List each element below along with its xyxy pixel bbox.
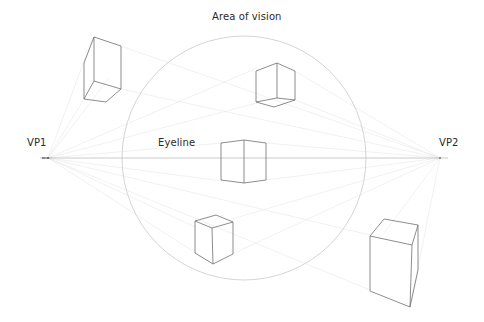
vp2-marker bbox=[439, 157, 441, 159]
eyeline-label: Eyeline bbox=[158, 137, 195, 148]
cube-bottom-right bbox=[370, 219, 418, 307]
perspective-diagram bbox=[0, 0, 484, 322]
cube-center bbox=[221, 140, 266, 183]
vp2-label: VP2 bbox=[439, 137, 459, 148]
area-of-vision-label: Area of vision bbox=[212, 11, 282, 22]
vp1-label: VP1 bbox=[27, 137, 47, 148]
cube-bottom-center bbox=[195, 215, 233, 264]
